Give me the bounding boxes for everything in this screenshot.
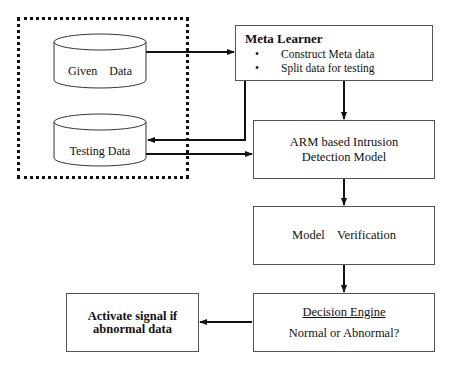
testing-data-label: Testing Data [54, 144, 146, 159]
decision-engine-title: Decision Engine [303, 302, 386, 323]
activate-signal-line1: Activate signal if [88, 310, 178, 323]
meta-learner-box: Meta Learner Construct Meta data Split d… [235, 25, 433, 81]
decision-engine-subtitle: Normal or Abnormal? [289, 323, 399, 344]
arm-model-box: ARM based Intrusion Detection Model [253, 120, 435, 179]
meta-learner-bullet: Construct Meta data [245, 47, 432, 61]
decision-engine-box: Decision Engine Normal or Abnormal? [253, 293, 435, 352]
model-verification-box: Model Verification [253, 206, 435, 265]
arm-model-line2: Detection Model [302, 150, 386, 165]
activate-signal-box: Activate signal if abnormal data [66, 293, 199, 352]
given-data-cylinder [54, 34, 146, 88]
given-data-label: Given Data [54, 64, 146, 79]
activate-signal-line2: abnormal data [93, 323, 172, 336]
meta-learner-title: Meta Learner [245, 31, 432, 47]
meta-learner-bullets: Construct Meta data Split data for testi… [245, 47, 432, 75]
edge-meta-to-testing [148, 80, 245, 140]
meta-learner-bullet: Split data for testing [245, 61, 432, 75]
model-verification-label: Model Verification [292, 228, 396, 243]
arm-model-line1: ARM based Intrusion [290, 135, 398, 150]
